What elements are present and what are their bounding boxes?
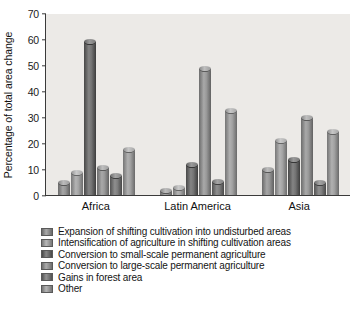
y-axis-title: Percentage of total area change [2,14,15,196]
bar-body [199,69,211,195]
bar-latin-america-series-6 [225,108,237,196]
legend-label: Expansion of shifting cultivation into u… [58,226,291,237]
legend-swatch-icon [41,262,53,270]
y-tick-mark [42,169,47,170]
y-tick-label: 40 [28,86,39,98]
x-axis-label-africa: Africa [82,200,110,212]
legend-label: Conversion to small-scale permanent agri… [58,249,266,260]
bar-body [97,168,109,195]
bar-cap [301,115,313,121]
bar-cap [288,157,300,163]
bar-latin-america-series-4 [199,66,211,195]
legend-swatch-icon [41,250,53,258]
legend-label: Gains in forest area [58,272,142,283]
y-tick-mark [42,91,47,92]
y-tick-mark [42,195,47,196]
y-tick-mark [42,65,47,66]
y-tick-label: 10 [28,164,39,176]
y-tick-label: 70 [28,8,39,20]
legend-label: Intensification of agriculture in shifti… [58,237,291,248]
x-axis-label-asia: Asia [288,200,309,212]
bar-latin-america-series-3 [186,162,198,195]
bar-asia-series-3 [288,157,300,195]
bar-body [186,165,198,195]
bar-cap [314,180,326,186]
bar-africa-series-2 [71,170,83,195]
legend-item-5[interactable]: Gains in forest area [41,272,361,283]
bar-africa-series-4 [97,165,109,195]
bar-body [123,150,135,196]
legend-swatch-icon [41,239,53,247]
bar-body [225,111,237,196]
bar-body [275,141,287,195]
bar-asia-series-1 [262,167,274,195]
bar-body [301,118,313,195]
bar-body [262,170,274,195]
legend-item-6[interactable]: Other [41,283,361,294]
y-tick-label: 60 [28,34,39,46]
bar-asia-series-5 [314,180,326,195]
y-tick-mark [42,143,47,144]
legend-item-3[interactable]: Conversion to small-scale permanent agri… [41,249,361,260]
legend-swatch-icon [41,285,53,293]
plot-area: 010203040506070 [45,14,350,196]
chart-legend: Expansion of shifting cultivation into u… [41,226,361,294]
legend-label: Conversion to large-scale permanent agri… [58,260,264,271]
bar-africa-series-1 [58,180,70,195]
bar-asia-series-2 [275,138,287,195]
legend-item-2[interactable]: Intensification of agriculture in shifti… [41,237,361,248]
y-tick-label: 20 [28,138,39,150]
legend-swatch-icon [41,273,53,281]
legend-item-4[interactable]: Conversion to large-scale permanent agri… [41,260,361,271]
bar-latin-america-series-5 [212,179,224,195]
bar-africa-series-3 [84,39,96,195]
y-tick-label: 0 [33,190,39,202]
bar-body [327,132,339,195]
bar-africa-series-5 [110,173,122,195]
y-tick-label: 50 [28,60,39,72]
bar-africa-series-6 [123,147,135,196]
bar-asia-series-4 [301,115,313,195]
bar-chart-figure: Percentage of total area change 01020304… [0,0,364,323]
y-tick-mark [42,13,47,14]
bar-cap [327,129,339,135]
bar-body [288,160,300,195]
plot-bars-container [46,14,350,195]
bar-latin-america-series-1 [160,188,172,195]
bar-body [71,173,83,195]
y-tick-mark [42,117,47,118]
bar-latin-america-series-2 [173,185,185,195]
bar-asia-series-6 [327,129,339,195]
bar-cap [262,167,274,173]
legend-swatch-icon [41,228,53,236]
y-tick-label: 30 [28,112,39,124]
bar-cap [84,39,96,45]
legend-item-1[interactable]: Expansion of shifting cultivation into u… [41,226,361,237]
bar-cap [199,66,211,72]
bar-cap [225,108,237,114]
bar-body [84,42,96,195]
y-tick-mark [42,39,47,40]
bar-cap [212,179,224,185]
x-axis-label-latin-america: Latin America [164,200,231,212]
bar-cap [123,147,135,153]
legend-label: Other [58,283,82,294]
